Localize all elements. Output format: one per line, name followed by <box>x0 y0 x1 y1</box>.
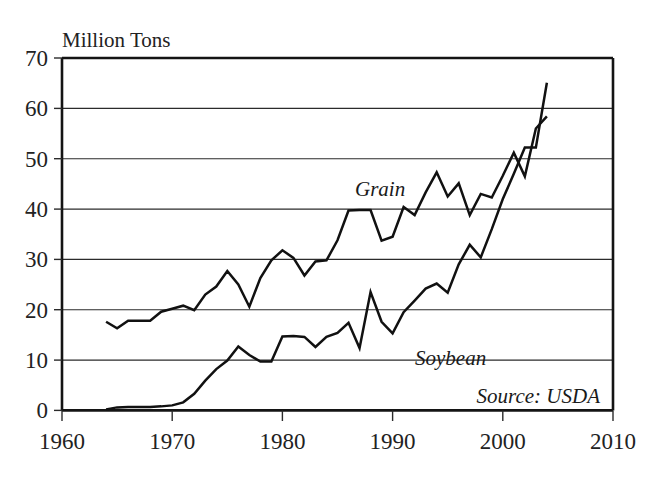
series-annotation-soybean: Soybean <box>415 346 486 370</box>
series-line-grain <box>106 116 547 328</box>
x-tickmarks-group <box>62 410 613 421</box>
series-annotation-grain: Grain <box>355 177 405 201</box>
x-ticklabel-1970: 1970 <box>149 429 195 454</box>
x-ticklabel-1990: 1990 <box>370 429 416 454</box>
x-ticklabel-2010: 2010 <box>590 429 636 454</box>
line-chart-canvas: 70 60 50 40 30 20 10 0 1960 1970 1980 19… <box>0 0 664 500</box>
y-ticklabel-20: 20 <box>25 298 48 323</box>
y-ticklabel-50: 50 <box>25 147 48 172</box>
x-ticklabel-1960: 1960 <box>39 429 85 454</box>
y-ticklabel-70: 70 <box>25 46 48 71</box>
x-ticklabel-1980: 1980 <box>259 429 305 454</box>
y-ticklabels-group: 70 60 50 40 30 20 10 0 <box>25 46 48 423</box>
chart-figure: 70 60 50 40 30 20 10 0 1960 1970 1980 19… <box>0 0 664 500</box>
y-ticklabel-30: 30 <box>25 247 48 272</box>
y-ticklabel-40: 40 <box>25 197 48 222</box>
source-note: Source: USDA <box>477 384 601 408</box>
y-ticklabel-10: 10 <box>25 348 48 373</box>
y-ticklabel-0: 0 <box>37 398 49 423</box>
y-ticklabel-60: 60 <box>25 96 48 121</box>
plot-frame <box>62 58 613 410</box>
gridlines-group <box>62 108 613 360</box>
x-ticklabel-2000: 2000 <box>480 429 526 454</box>
x-ticklabels-group: 1960 1970 1980 1990 2000 2010 <box>39 429 636 454</box>
y-axis-unit-label: Million Tons <box>62 28 170 52</box>
